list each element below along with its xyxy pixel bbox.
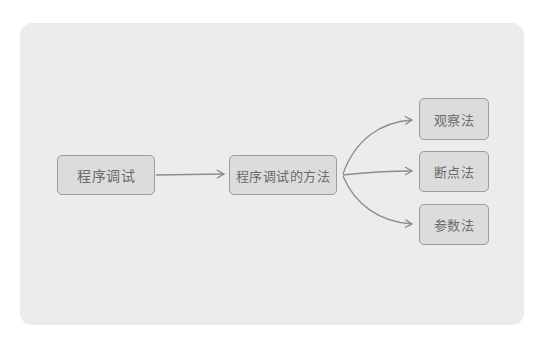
edge-root-methods (156, 174, 224, 175)
edge-methods-parameter (343, 176, 412, 224)
node-label: 参数法 (434, 215, 475, 234)
node-program-debugging: 程序调试 (57, 155, 155, 195)
node-label: 程序调试的方法 (236, 166, 331, 185)
node-observation-method: 观察法 (419, 98, 489, 140)
node-parameter-method: 参数法 (419, 204, 489, 245)
node-label: 观察法 (434, 110, 475, 129)
node-label: 断点法 (434, 162, 475, 181)
node-debugging-methods: 程序调试的方法 (229, 155, 337, 195)
node-label: 程序调试 (77, 165, 135, 185)
edge-methods-observe (343, 120, 412, 174)
node-breakpoint-method: 断点法 (419, 151, 489, 192)
edge-methods-breakpoint (343, 171, 412, 175)
